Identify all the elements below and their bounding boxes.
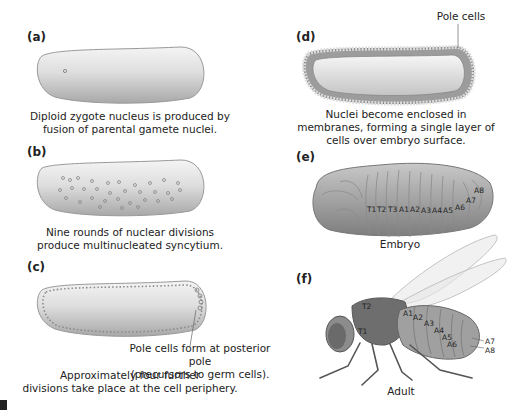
segment-e-T2: T2: [377, 205, 386, 214]
embryo-d: [304, 24, 474, 104]
caption-e: Embryo: [370, 238, 430, 251]
page-edge-marker: [0, 400, 7, 410]
segment-e-A2: A2: [410, 205, 420, 214]
panel-label-a: (a): [27, 30, 46, 44]
segment-f-A7: A7: [485, 337, 495, 346]
caption-a-line-1: Diploid zygote nucleus is produced by: [20, 110, 240, 123]
panel-label-c: (c): [27, 260, 45, 274]
segment-e-A7: A7: [466, 196, 476, 205]
caption-d-line-2: membranes, forming a single layer of: [285, 121, 507, 134]
segment-e-T1: T1: [367, 205, 376, 214]
segment-e-A3: A3: [421, 206, 431, 215]
caption-a: Diploid zygote nucleus is produced by fu…: [20, 110, 240, 136]
panel-label-d: (d): [296, 30, 316, 44]
segment-f-T2: T2: [362, 302, 371, 311]
callout-c-line-1: Pole cells form at posterior pole: [120, 342, 280, 368]
segment-e-A6: A6: [455, 203, 465, 212]
embryo-c: [37, 281, 206, 346]
segment-f-A3: A3: [424, 319, 434, 328]
segment-f-T1: T1: [358, 327, 367, 336]
caption-d: Nuclei become enclosed in membranes, for…: [285, 108, 507, 147]
caption-f: Adult: [376, 385, 426, 398]
segment-f-A2: A2: [413, 313, 423, 322]
caption-d-line-1: Nuclei become enclosed in: [285, 108, 507, 121]
segment-e-A5: A5: [443, 206, 453, 215]
segment-f-A1: A1: [403, 309, 413, 318]
segment-f-A6: A6: [447, 340, 457, 349]
caption-c-line-2: divisions take place at the cell periphe…: [20, 382, 240, 395]
segment-e-A8: A8: [474, 186, 484, 195]
panel-label-e: (e): [296, 150, 315, 164]
caption-c: Approximately four further divisions tak…: [20, 369, 240, 395]
embryo-a: [37, 47, 204, 103]
segment-e-T3: T3: [388, 205, 397, 214]
caption-a-line-2: fusion of parental gamete nuclei.: [20, 123, 240, 136]
segment-e-A1: A1: [399, 205, 409, 214]
caption-b: Nine rounds of nuclear divisions produce…: [20, 226, 240, 252]
segment-f-A8: A8: [485, 346, 495, 355]
caption-b-line-2: produce multinucleated syncytium.: [20, 239, 240, 252]
segment-e-A4: A4: [432, 206, 442, 215]
caption-d-line-3: cells over embryo surface.: [285, 134, 507, 147]
caption-b-line-1: Nine rounds of nuclear divisions: [20, 226, 240, 239]
adult-fly: [320, 235, 506, 385]
embryo-b: [37, 160, 204, 216]
panel-label-b: (b): [27, 145, 47, 159]
panel-label-f: (f): [296, 272, 312, 286]
callout-d: Pole cells: [436, 10, 486, 23]
caption-c-line-1: Approximately four further: [20, 369, 240, 382]
